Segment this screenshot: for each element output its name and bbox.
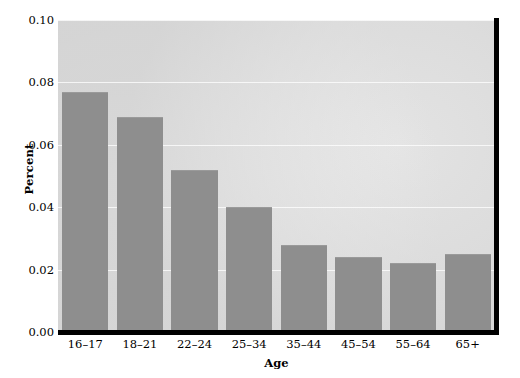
y-axis-label: Percent (22, 134, 36, 204)
x-tick-label: 65+ (440, 338, 495, 351)
bar (117, 117, 163, 332)
plot-area (58, 20, 495, 332)
x-tick-label: 35–44 (277, 338, 332, 351)
y-tick-label: 0.00 (2, 326, 54, 338)
bar (281, 245, 327, 332)
x-axis-line (58, 330, 499, 335)
x-axis-label: Age (58, 356, 495, 370)
x-tick-label: 55–64 (386, 338, 441, 351)
bar (390, 263, 436, 332)
right-axis-line (494, 18, 499, 335)
bar-series (58, 20, 495, 332)
y-tick-label: 0.10 (2, 14, 54, 26)
x-tick-label: 22–24 (167, 338, 222, 351)
x-tick-label: 25–34 (222, 338, 277, 351)
bar-chart: 0.000.020.040.060.080.10 16–1718–2122–24… (0, 0, 520, 378)
y-tick-label: 0.08 (2, 76, 54, 88)
y-tick-label: 0.02 (2, 264, 54, 276)
bar (335, 257, 381, 332)
bar (171, 170, 217, 332)
bar (62, 92, 108, 332)
bar (445, 254, 491, 332)
bar (226, 207, 272, 332)
x-tick-label: 18–21 (113, 338, 168, 351)
x-tick-label: 45–54 (331, 338, 386, 351)
x-tick-label: 16–17 (58, 338, 113, 351)
